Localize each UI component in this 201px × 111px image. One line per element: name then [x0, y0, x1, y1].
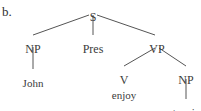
terminal-john: John [23, 78, 44, 89]
node-pres: Pres [83, 43, 104, 55]
node-np-object: NP [178, 74, 193, 86]
node-v: V [120, 74, 129, 86]
item-letter: b. [2, 5, 12, 18]
syntax-tree-figure: b. S NP Pres VP John V NP enjoy tennis [0, 0, 201, 111]
node-np-subject: NP [25, 43, 40, 55]
node-s: S [90, 11, 97, 23]
terminal-tennis: tennis [173, 107, 199, 111]
node-vp: VP [149, 43, 164, 55]
tree-edge-s-np1 [33, 15, 89, 35]
tree-edge-s-vp [97, 15, 155, 35]
terminal-enjoy: enjoy [112, 90, 136, 101]
